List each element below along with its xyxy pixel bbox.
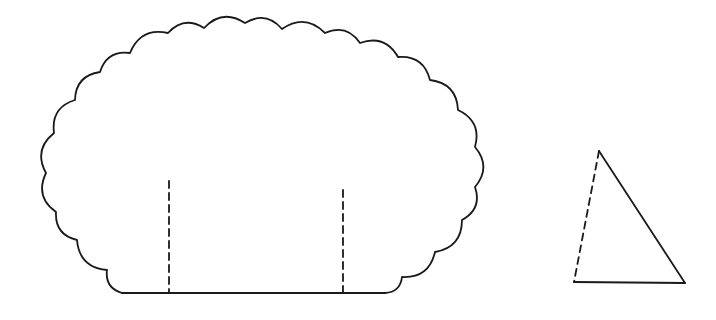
triangle-base (574, 282, 685, 283)
diagram-canvas (0, 0, 716, 320)
triangle-right-side (599, 151, 685, 283)
scalloped-shape (41, 17, 483, 293)
scalloped-outline (41, 17, 483, 293)
triangle (574, 151, 685, 283)
triangle-dashed-side (574, 151, 599, 282)
